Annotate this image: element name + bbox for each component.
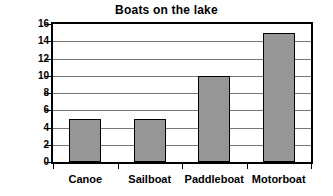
x-tick-mark (118, 164, 119, 169)
plot-inner (53, 24, 311, 162)
chart-title: Boats on the lake (0, 3, 333, 17)
x-category-label: Paddleboat (182, 172, 247, 186)
x-tick-mark (182, 164, 183, 169)
x-tick-mark (53, 164, 54, 169)
x-tick-mark (311, 164, 312, 169)
x-tick-mark (247, 164, 248, 169)
x-category-label: Motorboat (247, 172, 312, 186)
x-category-label: Canoe (53, 172, 118, 186)
bar (134, 119, 166, 162)
bar (198, 76, 230, 162)
plot-area (51, 22, 313, 164)
bar (69, 119, 101, 162)
x-category-label: Sailboat (118, 172, 183, 186)
bar (263, 33, 295, 162)
